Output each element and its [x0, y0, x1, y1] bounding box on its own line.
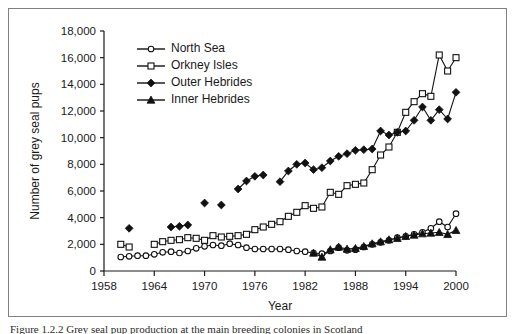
marker-solid-diamond [201, 199, 209, 207]
marker-open-square [445, 68, 451, 74]
marker-solid-diamond [377, 127, 385, 135]
x-tick-label: 2000 [443, 280, 469, 292]
marker-open-square [419, 91, 425, 97]
chart-frame: 02,0004,0006,0008,00010,00012,00014,0001… [8, 8, 507, 317]
marker-open-square [235, 233, 241, 239]
series-line [314, 230, 457, 257]
marker-solid-diamond [251, 172, 259, 180]
series-orkney-isles [118, 52, 459, 250]
legend-label: Inner Hebrides [171, 92, 250, 106]
marker-open-square [148, 63, 154, 69]
marker-open-circle [202, 244, 208, 250]
y-tick-label: 12,000 [61, 105, 96, 117]
marker-open-square [428, 93, 434, 99]
marker-open-square [285, 213, 291, 219]
marker-solid-diamond [167, 223, 175, 231]
marker-open-square [269, 221, 275, 227]
marker-open-square [252, 227, 258, 233]
y-tick-label: 2,000 [67, 238, 96, 250]
marker-open-square [218, 234, 224, 240]
x-tick-label: 1970 [192, 280, 218, 292]
marker-solid-diamond [184, 221, 192, 229]
marker-open-circle [286, 247, 292, 253]
marker-open-circle [151, 252, 157, 258]
marker-open-square [352, 181, 358, 187]
marker-solid-diamond [335, 152, 343, 160]
y-tick-label: 4,000 [67, 212, 96, 224]
y-tick-label: 10,000 [61, 132, 96, 144]
marker-open-square [378, 152, 384, 158]
marker-solid-diamond [419, 103, 427, 111]
marker-open-circle [185, 248, 191, 254]
marker-open-circle [453, 211, 459, 217]
y-axis-title: Number of grey seal pups [28, 82, 42, 219]
y-tick-label: 16,000 [61, 52, 96, 64]
marker-open-square [210, 233, 216, 239]
marker-open-circle [193, 246, 199, 252]
x-tick-label: 1988 [343, 280, 369, 292]
marker-open-square [126, 244, 132, 250]
marker-solid-diamond [217, 201, 225, 209]
marker-open-square [436, 52, 442, 58]
y-tick-label: 6,000 [67, 185, 96, 197]
marker-open-circle [260, 246, 266, 252]
marker-open-circle [244, 245, 250, 251]
marker-open-square [294, 209, 300, 215]
series-outer-hebrides [125, 88, 460, 232]
marker-open-square [193, 235, 199, 241]
x-tick-label: 1958 [91, 280, 117, 292]
series-inner-hebrides [310, 226, 460, 260]
y-tick-label: 14,000 [61, 78, 96, 90]
marker-open-circle [302, 249, 308, 255]
marker-open-square [361, 180, 367, 186]
y-tick-label: 0 [90, 265, 96, 277]
marker-solid-triangle [452, 226, 460, 233]
marker-open-square [277, 219, 283, 225]
marker-open-circle [219, 243, 225, 249]
marker-open-square [319, 204, 325, 210]
marker-open-circle [177, 250, 183, 256]
marker-solid-diamond [343, 150, 351, 158]
chart-canvas: 02,0004,0006,0008,00010,00012,00014,0001… [9, 9, 506, 316]
marker-open-square [168, 237, 174, 243]
marker-open-circle [252, 246, 258, 252]
marker-open-circle [126, 254, 132, 260]
marker-open-circle [160, 250, 166, 256]
marker-open-circle [168, 249, 174, 255]
y-tick-label: 18,000 [61, 25, 96, 37]
marker-open-square [302, 203, 308, 209]
marker-solid-diamond [352, 146, 360, 154]
marker-open-square [386, 144, 392, 150]
figure-container: 02,0004,0006,0008,00010,00012,00014,0001… [0, 0, 516, 334]
marker-open-square [185, 235, 191, 241]
marker-solid-diamond [368, 145, 376, 153]
marker-solid-diamond [385, 131, 393, 139]
chart-legend: North SeaOrkney IslesOuter HebridesInner… [137, 41, 252, 106]
marker-open-circle [294, 248, 300, 254]
series-line [280, 92, 456, 181]
marker-open-circle [135, 253, 141, 259]
marker-open-circle [148, 46, 154, 52]
marker-solid-diamond [176, 222, 184, 230]
marker-open-square [311, 205, 317, 211]
legend-label: Orkney Isles [171, 58, 238, 72]
marker-open-square [118, 241, 124, 247]
x-tick-label: 1982 [292, 280, 318, 292]
y-tick-label: 8,000 [67, 158, 96, 170]
marker-open-square [411, 99, 417, 105]
marker-open-circle [269, 246, 275, 252]
marker-solid-diamond [452, 88, 460, 96]
marker-open-square [260, 224, 266, 230]
marker-open-circle [118, 254, 124, 260]
marker-open-square [176, 237, 182, 243]
marker-open-square [403, 109, 409, 115]
marker-open-square [344, 183, 350, 189]
marker-open-square [151, 241, 157, 247]
marker-open-circle [445, 224, 451, 230]
marker-open-square [243, 231, 249, 237]
marker-open-circle [227, 241, 233, 247]
marker-open-square [327, 189, 333, 195]
marker-open-square [160, 239, 166, 245]
x-tick-label: 1964 [141, 280, 167, 292]
marker-solid-diamond [360, 146, 368, 154]
